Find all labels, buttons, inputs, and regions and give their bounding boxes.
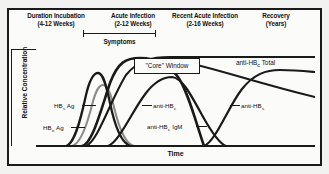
leader-anti-hbc-igm (196, 126, 207, 127)
bracket-bar (83, 33, 156, 34)
label-anti-hbc-igm: anti-HBc IgM (147, 123, 183, 130)
symptoms-label: Symptoms (83, 38, 156, 45)
y-axis-label: Relative Concentration (21, 43, 28, 123)
label-hbeag-subscript: e (52, 128, 55, 133)
anti-hbc-total-subscript: c (257, 62, 260, 68)
core-window-label: "Core" Window (135, 59, 199, 73)
label-anti-hbs-base: anti-HB (241, 102, 262, 109)
x-axis-label: Time (36, 150, 315, 157)
phase-label: Recent Acute Infection (170, 12, 240, 20)
leader-hbeag (71, 127, 85, 128)
phase-label: Duration Incubation (12, 12, 100, 20)
leader-anti-hbs (230, 105, 240, 106)
label-anti-hbc-base: anti-HB (153, 102, 174, 109)
leader-anti-hbc (142, 105, 152, 106)
bracket-tick-right (155, 30, 156, 37)
anti-hbc-total-label: anti-HBc Total (236, 59, 275, 68)
anti-hbc-total-suffix: Total (262, 59, 276, 66)
phase-duration: (2-16 Weeks) (170, 20, 240, 28)
label-hbsag-subscript: s (63, 106, 66, 111)
phase-header: Duration Incubation (4-12 Weeks) Acute I… (12, 12, 315, 52)
phase-recovery: Recovery (Years) (240, 12, 312, 28)
phase-duration-incubation: Duration Incubation (4-12 Weeks) (12, 12, 100, 28)
core-window-callout: "Core" Window (134, 58, 200, 74)
label-anti-hbc-igm-base: anti-HB (147, 123, 168, 130)
phase-label: Acute Infection (96, 12, 170, 20)
label-anti-hbs: anti-HBs (241, 102, 264, 109)
phase-duration: (4-12 Weeks) (12, 20, 100, 28)
phase-duration: (2-12 Weeks) (96, 20, 170, 28)
label-hbsag: HBs Ag (54, 102, 74, 109)
phase-duration: (Years) (240, 20, 312, 28)
label-hbeag: HBe Ag (43, 124, 64, 131)
label-anti-hbc-igm-suffix: IgM (172, 123, 182, 130)
curve-anti-hbc-igm (108, 77, 226, 146)
y-axis-box: Relative Concentration (11, 49, 36, 146)
label-anti-hbc: anti-HBc (153, 102, 176, 109)
symptoms-bracket (83, 30, 156, 37)
anti-hbc-total-base: anti-HB (236, 59, 257, 66)
phase-recent-acute-infection: Recent Acute Infection (2-16 Weeks) (170, 12, 240, 28)
hepatitis-b-serology-figure: Duration Incubation (4-12 Weeks) Acute I… (0, 0, 329, 174)
leader-hbsag (82, 105, 96, 106)
label-hbsag-suffix: Ag (67, 102, 75, 109)
label-hbeag-base: HB (43, 124, 52, 131)
phase-label: Recovery (240, 12, 312, 20)
phase-acute-infection: Acute Infection (2-12 Weeks) (96, 12, 170, 28)
label-hbsag-base: HB (54, 102, 63, 109)
x-axis-line (36, 145, 315, 147)
label-hbeag-suffix: Ag (56, 124, 64, 131)
